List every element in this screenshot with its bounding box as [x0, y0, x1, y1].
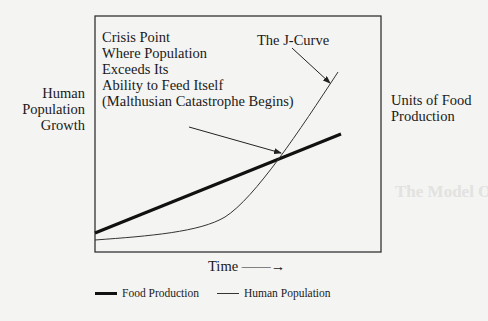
legend: Food Production Human Population: [95, 287, 349, 299]
legend-item-food: Food Production: [95, 287, 199, 299]
y-axis-label: Human Population Growth: [22, 85, 85, 133]
jcurve-annotation: The J-Curve: [257, 32, 329, 48]
crisis-arrow: [189, 127, 281, 153]
legend-item-population: Human Population: [217, 287, 331, 299]
y2-axis-label: Units of Food Production: [391, 92, 472, 124]
jcurve-arrow: [292, 48, 330, 83]
food-production-line: [95, 134, 341, 233]
x-axis-label: Time ——→: [208, 258, 285, 274]
arrow-right-icon: ——→: [242, 258, 286, 274]
thick-line-swatch-icon: [95, 292, 117, 295]
thin-line-swatch-icon: [217, 293, 239, 294]
